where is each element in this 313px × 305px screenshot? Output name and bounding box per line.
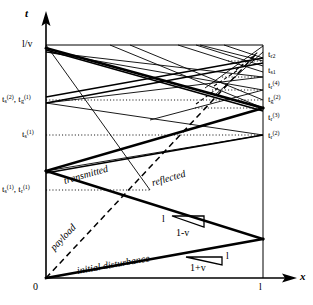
right-tick-t-s1-right: ts1 <box>268 66 276 75</box>
right-tick-t-r2: tr(2) <box>268 130 280 140</box>
secondary-wavefronts <box>46 50 263 173</box>
right-tick-t-r3: tr(3) <box>268 112 280 122</box>
right-tick-t-r4: tr(4) <box>268 80 280 90</box>
x-max-tick-label: l <box>259 282 262 292</box>
label-leaders <box>196 52 258 104</box>
slope-initial-rise-label: l <box>226 251 229 261</box>
payload-trajectory <box>46 52 258 278</box>
characteristics-plot <box>0 0 313 305</box>
y-max-tick-label: l/v <box>22 39 33 49</box>
t-axis-label: t <box>25 8 28 19</box>
slope-transmitted-rise-label: l <box>162 214 165 224</box>
right-tick-t-g2: tg(2) <box>268 94 281 104</box>
x-axis-label: x <box>300 271 306 282</box>
left-tick-t-s1: ts(1) <box>22 129 34 139</box>
right-tick-t-r2-top: tr2 <box>268 50 276 59</box>
slope-initial-run-label: 1+v <box>190 263 206 273</box>
diagram-canvas: t x 0 l l/v ts(2), tg(1) ts(1) ts(1), tr… <box>0 0 313 305</box>
left-tick-t-s1-t-r1: ts(1), tr(1) <box>2 184 30 194</box>
origin-tick-label: 0 <box>33 282 38 292</box>
left-tick-t-s2-t-g1: ts(2), tg(1) <box>2 94 31 104</box>
slope-transmitted-run-label: 1-v <box>176 228 189 238</box>
